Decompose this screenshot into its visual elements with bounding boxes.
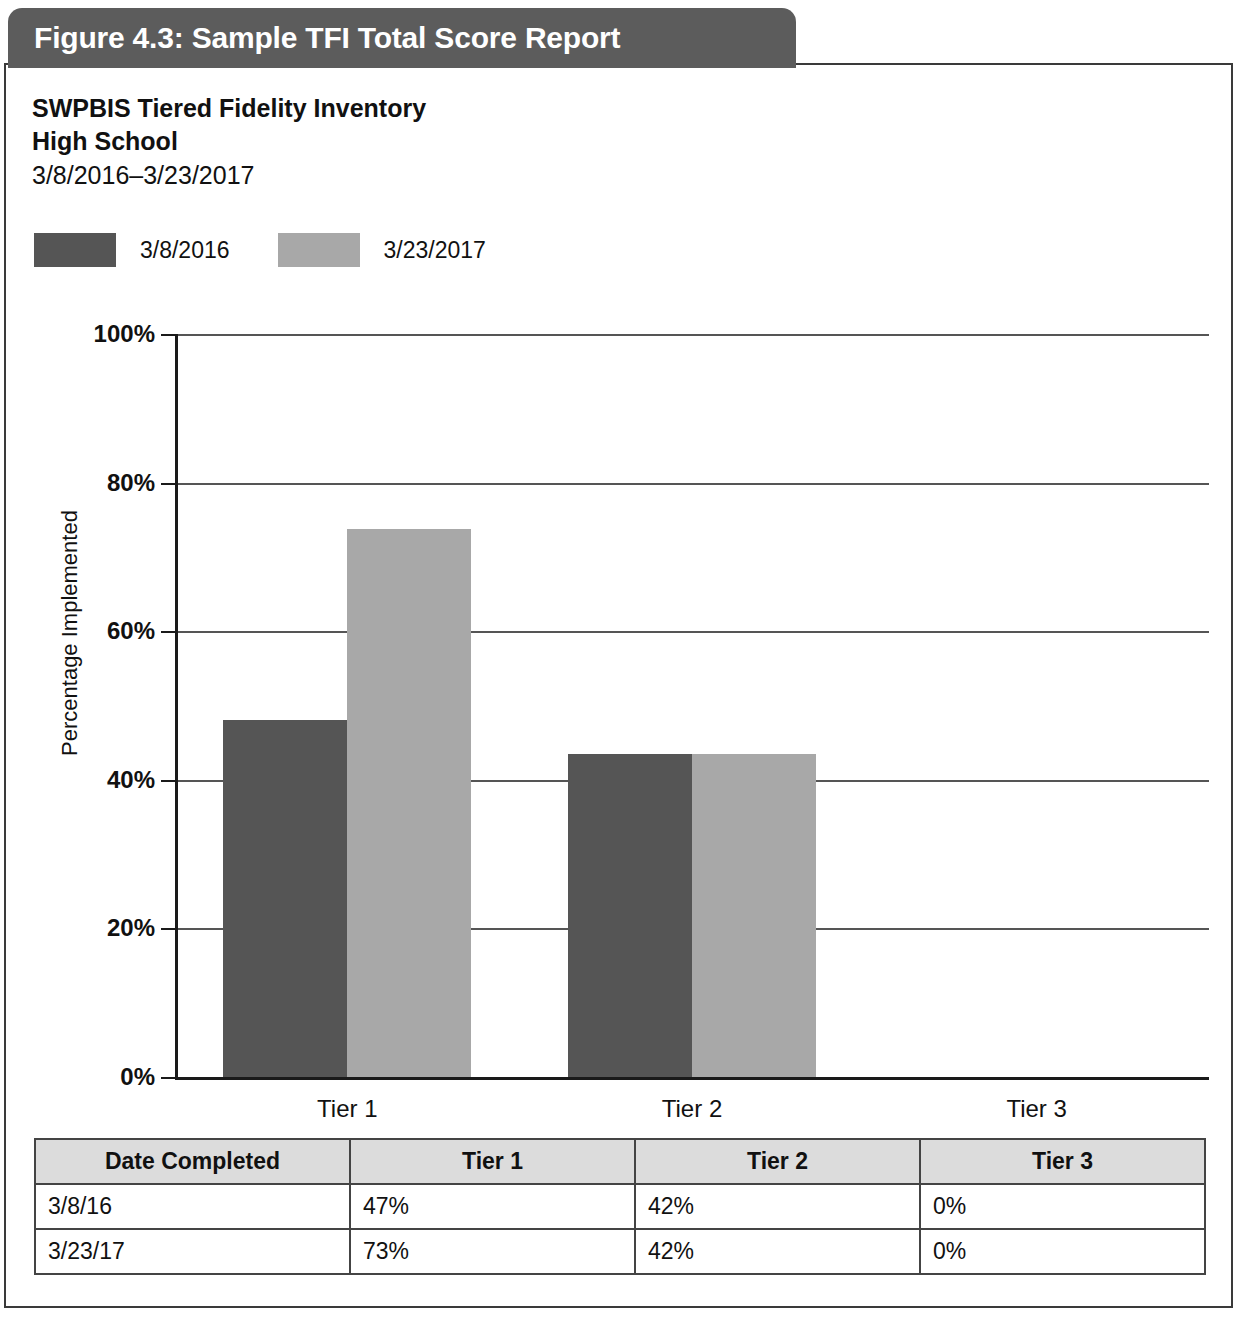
- y-axis-tick-label: 80%: [35, 469, 155, 497]
- x-axis-tick-label: Tier 2: [662, 1095, 722, 1123]
- x-axis-tick-label: Tier 3: [1006, 1095, 1066, 1123]
- bar-tier-1-series-1: [223, 720, 347, 1077]
- table-header-date: Date Completed: [35, 1139, 350, 1184]
- table-cell-tier3: 0%: [920, 1229, 1205, 1274]
- y-axis-tick-label: 100%: [35, 320, 155, 348]
- y-axis-tick-label: 0%: [35, 1063, 155, 1091]
- table-header-tier2: Tier 2: [635, 1139, 920, 1184]
- bar-tier-2-series-1: [568, 754, 692, 1077]
- y-axis-line: [175, 334, 178, 1077]
- table-header-tier3: Tier 3: [920, 1139, 1205, 1184]
- bar-chart: Percentage Implemented 0%20%40%60%80%100…: [6, 65, 1235, 1145]
- table-cell-date: 3/8/16: [35, 1184, 350, 1229]
- bar-tier-1-series-2: [347, 529, 471, 1077]
- y-axis-tick-mark: [161, 780, 175, 782]
- table-header-row: Date Completed Tier 1 Tier 2 Tier 3: [35, 1139, 1205, 1184]
- gridline: [175, 334, 1209, 336]
- y-axis-tick-label: 20%: [35, 914, 155, 942]
- y-axis-tick-mark: [161, 1077, 175, 1079]
- table-cell-tier2: 42%: [635, 1184, 920, 1229]
- table-cell-date: 3/23/17: [35, 1229, 350, 1274]
- y-axis-tick-mark: [161, 928, 175, 930]
- table-row: 3/8/16 47% 42% 0%: [35, 1184, 1205, 1229]
- table-header-tier1: Tier 1: [350, 1139, 635, 1184]
- bar-tier-2-series-2: [692, 754, 816, 1077]
- score-data-table: Date Completed Tier 1 Tier 2 Tier 3 3/8/…: [34, 1138, 1206, 1275]
- table-row: 3/23/17 73% 42% 0%: [35, 1229, 1205, 1274]
- x-axis-line: [175, 1077, 1209, 1080]
- gridline: [175, 483, 1209, 485]
- table-cell-tier3: 0%: [920, 1184, 1205, 1229]
- figure-banner: Figure 4.3: Sample TFI Total Score Repor…: [8, 8, 796, 68]
- x-axis-tick-label: Tier 1: [317, 1095, 377, 1123]
- figure-panel: SWPBIS Tiered Fidelity Inventory High Sc…: [4, 63, 1233, 1308]
- y-axis-tick-mark: [161, 334, 175, 336]
- y-axis-tick-label: 60%: [35, 617, 155, 645]
- table-cell-tier2: 42%: [635, 1229, 920, 1274]
- figure-title: Figure 4.3: Sample TFI Total Score Repor…: [8, 21, 620, 55]
- y-axis-tick-mark: [161, 483, 175, 485]
- gridline: [175, 631, 1209, 633]
- table-cell-tier1: 47%: [350, 1184, 635, 1229]
- y-axis-tick-mark: [161, 631, 175, 633]
- y-axis-tick-label: 40%: [35, 766, 155, 794]
- table-cell-tier1: 73%: [350, 1229, 635, 1274]
